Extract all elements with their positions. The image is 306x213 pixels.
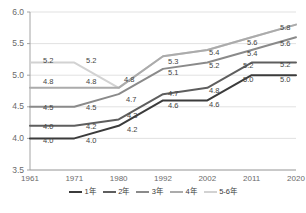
legend-item[interactable]: 3年: [136, 188, 163, 196]
data-point-label: 4.6: [209, 101, 219, 109]
data-point-label: 4.8: [124, 76, 134, 84]
x-axis-tick-label: 2020: [276, 174, 306, 183]
x-axis-tick-label: 2011: [232, 174, 272, 183]
data-point-label: 4.8: [209, 87, 219, 95]
y-axis-tick-label: 5.5: [0, 39, 24, 48]
legend-item[interactable]: 4年: [170, 188, 197, 196]
data-point-label: 5.4: [209, 49, 219, 57]
data-point-label: 4.7: [126, 96, 136, 104]
legend-color-swatch: [136, 191, 149, 194]
data-point-label: 5.2: [209, 62, 219, 70]
legend-item[interactable]: 2年: [103, 188, 130, 196]
legend-item[interactable]: 5-6年: [204, 188, 237, 196]
legend-color-swatch: [69, 191, 82, 194]
data-point-label: 4.2: [86, 123, 96, 131]
chart-container: 3.54.04.55.05.56.0 196119711980199220022…: [0, 0, 306, 213]
legend-label: 4年: [186, 188, 197, 196]
data-point-label: 4.0: [43, 137, 53, 145]
data-point-label: 5.2: [86, 57, 96, 65]
data-point-label: 4.5: [43, 104, 53, 112]
data-point-label: 4.6: [168, 102, 178, 110]
data-point-label: 4.2: [127, 126, 137, 134]
chart-legend: 1年2年3年4年5-6年: [0, 188, 306, 196]
data-point-label: 4.5: [86, 104, 96, 112]
y-axis-tick-label: 4.0: [0, 134, 24, 143]
legend-color-swatch: [103, 191, 116, 194]
x-axis-tick-label: 1961: [10, 174, 50, 183]
legend-color-swatch: [204, 191, 217, 194]
data-point-label: 5.6: [247, 39, 257, 47]
legend-item[interactable]: 1年: [69, 188, 96, 196]
data-point-label: 5.0: [280, 76, 290, 84]
data-point-label: 5.1: [168, 69, 178, 77]
data-point-label: 4.8: [86, 78, 96, 86]
data-point-label: 4.0: [43, 123, 53, 131]
x-axis-tick-label: 1971: [54, 174, 94, 183]
y-axis-tick-label: 4.5: [0, 102, 24, 111]
data-point-label: 4.8: [43, 78, 53, 86]
data-point-label: 5.8: [280, 24, 290, 32]
series-line: [30, 37, 296, 107]
data-point-label: 5.3: [168, 58, 178, 66]
legend-label: 5-6年: [219, 188, 237, 196]
x-axis-tick-label: 2002: [187, 174, 227, 183]
y-axis-tick-label: 6.0: [0, 8, 24, 17]
x-axis-tick-label: 1992: [143, 174, 183, 183]
data-point-label: 5.0: [243, 76, 253, 84]
legend-label: 1年: [84, 188, 95, 196]
data-point-label: 5.2: [243, 62, 253, 70]
data-point-label: 5.4: [247, 50, 257, 58]
data-point-label: 4.7: [168, 90, 178, 98]
legend-color-swatch: [170, 191, 183, 194]
legend-label: 3年: [152, 188, 163, 196]
legend-label: 2年: [118, 188, 129, 196]
y-axis-tick-label: 5.0: [0, 71, 24, 80]
data-point-label: 5.2: [43, 57, 53, 65]
data-point-label: 4.3: [127, 112, 137, 120]
data-point-label: 4.0: [86, 137, 96, 145]
data-point-label: 5.6: [280, 40, 290, 48]
x-axis-tick-label: 1980: [99, 174, 139, 183]
series-line: [30, 63, 296, 126]
data-point-label: 5.2: [280, 61, 290, 69]
